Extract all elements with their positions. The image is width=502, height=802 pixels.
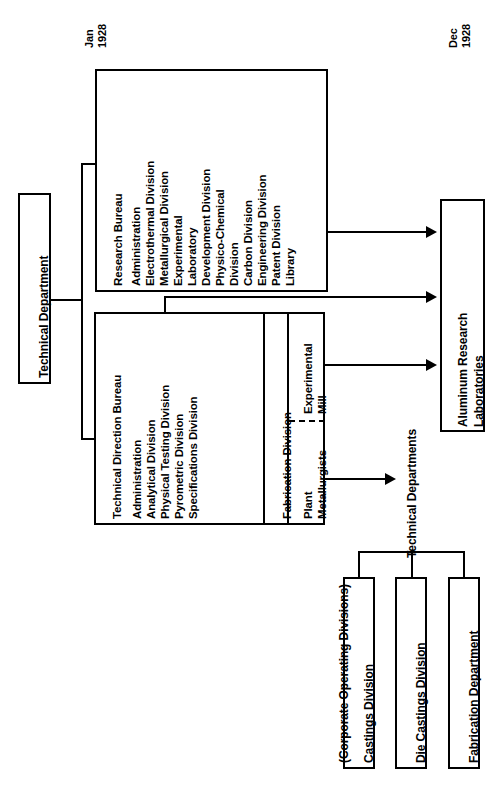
technical-direction-bureau-item-administration: Administration bbox=[132, 440, 144, 519]
fabrication-department-label: Fabrication Department bbox=[468, 631, 480, 764]
date-label-right-month: Dec bbox=[448, 28, 459, 48]
org-chart-canvas: Jan 1928 Dec 1928 Technical Department R… bbox=[0, 0, 502, 802]
arrow-research-to-arl-head bbox=[426, 226, 437, 238]
connector-root-stub bbox=[51, 299, 83, 301]
research-bureau-item-administration: Administration bbox=[131, 207, 143, 286]
aluminum-research-laboratories-line2: Laboratories bbox=[473, 356, 485, 428]
arrow-experimental-mill-to-arl-line bbox=[325, 364, 428, 366]
technical-direction-bureau-title: Technical Direction Bureau bbox=[112, 375, 124, 519]
research-bureau-item-laboratory: Laboratory bbox=[187, 227, 199, 286]
plant-metallurgists-line2: Metallurgists bbox=[317, 450, 329, 519]
experimental-mill-line1: Experimental bbox=[303, 344, 315, 414]
research-bureau-item-experimental: Experimental bbox=[173, 216, 185, 286]
bottom-bracket-bar bbox=[358, 551, 465, 553]
arrow-direction-to-arl-riser bbox=[164, 296, 166, 314]
date-label-right-year: 1928 bbox=[461, 24, 472, 48]
research-bureau-title: Research Bureau bbox=[113, 194, 125, 286]
bottom-bracket-drop-1 bbox=[358, 551, 360, 577]
technical-direction-bureau-item-pyrometric-division: Pyrometric Division bbox=[174, 414, 186, 519]
research-bureau-item-engineering-division: Engineering Division bbox=[257, 175, 269, 286]
research-bureau-item-development-division: Development Division bbox=[201, 169, 213, 286]
arrow-research-to-arl-line bbox=[328, 231, 428, 233]
arrow-direction-to-arl-line bbox=[164, 296, 428, 298]
technical-direction-bureau-item-analytical-division: Analytical Division bbox=[146, 420, 158, 519]
research-bureau-item-physico-chemical: Physico-Chemical bbox=[215, 189, 227, 286]
arrow-plant-metallurgists-head bbox=[385, 473, 396, 485]
research-bureau-item-carbon-division: Carbon Division bbox=[243, 200, 255, 286]
arrow-experimental-mill-to-arl-head bbox=[426, 359, 437, 371]
aluminum-research-laboratories-line1: Aluminum Research bbox=[457, 313, 469, 427]
technical-direction-bureau-item-specifications-division: Specifications Division bbox=[188, 397, 200, 519]
research-bureau-item-electrothermal-division: Electrothermal Division bbox=[145, 161, 157, 286]
research-bureau-item-library: Library bbox=[285, 248, 297, 286]
bottom-bracket-riser bbox=[411, 551, 413, 577]
date-label-left-year: 1928 bbox=[97, 24, 108, 48]
technical-direction-bureau-item-physical-testing-division: Physical Testing Division bbox=[160, 385, 172, 519]
plant-metallurgists-line1: Plant bbox=[303, 492, 315, 519]
technical-departments-label: Technical Departments bbox=[406, 429, 418, 558]
castings-division-label: Castings Division bbox=[363, 664, 375, 763]
fabrication-division-left-rule bbox=[263, 312, 265, 525]
research-bureau-item-metallurgical-division: Metallurgical Division bbox=[159, 171, 171, 286]
research-bureau-item-patent-division: Patent Division bbox=[271, 205, 283, 286]
bottom-bracket-drop-3 bbox=[463, 551, 465, 577]
arrow-direction-to-arl-head bbox=[426, 291, 437, 303]
date-label-left-month: Jan bbox=[84, 29, 95, 48]
research-bureau-item-physico-chemical-division: Division bbox=[229, 242, 241, 286]
experimental-mill-line2: Mill bbox=[317, 395, 329, 414]
technical-department-label: Technical Department bbox=[38, 256, 50, 378]
die-castings-division-label: Die Castings Division bbox=[415, 642, 427, 763]
corporate-operating-divisions-note: (Corporate Operating Divisions) bbox=[338, 584, 350, 763]
connector-spine bbox=[81, 163, 83, 440]
arrow-plant-metallurgists-line bbox=[325, 478, 387, 480]
